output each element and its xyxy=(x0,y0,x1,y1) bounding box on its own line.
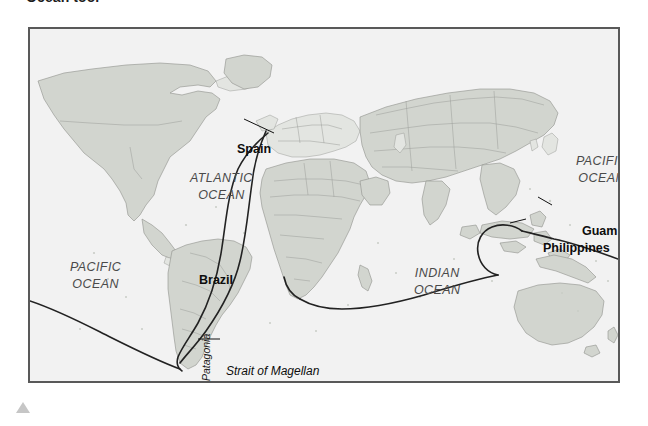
world-map[interactable]: .land { fill:#d2d5cf; stroke:#8e918c; st… xyxy=(28,27,620,383)
caption-strip: Ocean tool xyxy=(0,0,648,14)
caption-text: Ocean tool xyxy=(26,0,99,5)
map-canvas: .land { fill:#d2d5cf; stroke:#8e918c; st… xyxy=(30,29,618,381)
scroll-indicator-triangle[interactable] xyxy=(16,402,30,413)
